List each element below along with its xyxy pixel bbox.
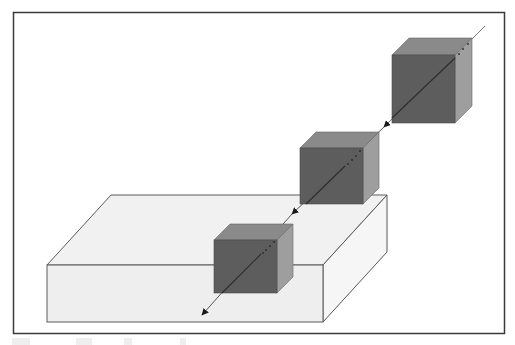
cube-2	[300, 132, 379, 204]
caption-fragment	[76, 338, 92, 345]
cube-3-front-face	[214, 240, 277, 293]
caption-fragment	[180, 338, 186, 345]
cube-2-front-face	[300, 148, 363, 204]
cube-3	[214, 224, 293, 293]
caption-fragment	[12, 338, 30, 345]
diagram-canvas	[0, 0, 515, 345]
caption-fragment	[124, 338, 132, 345]
cube-1-front-face	[392, 55, 455, 123]
cube-1	[392, 38, 472, 123]
